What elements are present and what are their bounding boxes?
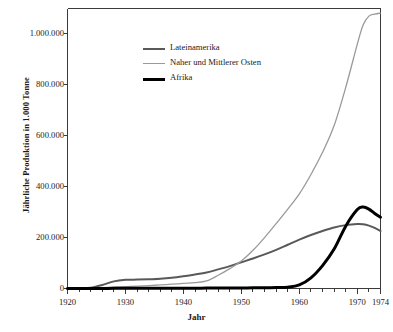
- legend-label-lateinamerika: Lateinamerika: [170, 43, 220, 52]
- legend-item-naher-und-mittlerer-osten[interactable]: Naher und Mittlerer Osten: [143, 55, 313, 70]
- series-line-afrika: [68, 207, 381, 288]
- legend-swatch-afrika: [143, 73, 165, 82]
- legend-swatch-lateinamerika: [143, 43, 165, 52]
- legend-label-afrika: Afrika: [170, 73, 192, 82]
- legend-swatch-naher-und-mittlerer-osten: [143, 58, 165, 67]
- legend-item-afrika[interactable]: Afrika: [143, 70, 313, 85]
- series-line-lateinamerika: [68, 224, 381, 288]
- chart-legend: Lateinamerika Naher und Mittlerer Osten …: [143, 40, 313, 85]
- legend-label-naher-und-mittlerer-osten: Naher und Mittlerer Osten: [170, 58, 261, 67]
- chart-figure: Jährliche Produktion in 1.000 Tonne 0200…: [0, 0, 393, 332]
- legend-item-lateinamerika[interactable]: Lateinamerika: [143, 40, 313, 55]
